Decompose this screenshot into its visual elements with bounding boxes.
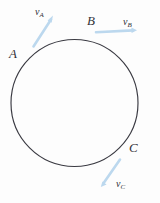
point-label-a: A	[9, 47, 17, 60]
trajectory-circle	[11, 40, 138, 167]
circular-motion-diagram	[0, 0, 160, 203]
velocity-vector-b-head	[131, 28, 137, 33]
velocity-label-c-subscript: C	[120, 183, 125, 191]
velocity-vector-a-shaft	[34, 20, 52, 47]
point-label-c: C	[129, 141, 138, 154]
velocity-label-c: vC	[116, 179, 125, 189]
figure-canvas: A B C vA vB vC	[0, 0, 160, 203]
point-label-b: B	[87, 14, 95, 27]
velocity-vector-b-shaft	[96, 30, 133, 32]
velocity-label-b-subscript: B	[127, 21, 131, 29]
velocity-label-b: vB	[123, 17, 132, 27]
velocity-label-a: vA	[35, 7, 44, 17]
velocity-vector-a	[34, 16, 54, 47]
velocity-label-a-subscript: A	[39, 11, 43, 19]
